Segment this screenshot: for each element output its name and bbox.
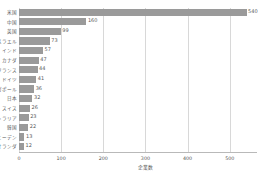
bar-value-label: 26	[31, 103, 37, 113]
bar-value-label: 13	[26, 132, 32, 142]
category-label: シンガポール	[0, 85, 17, 95]
bar	[19, 57, 39, 64]
bar	[19, 76, 36, 83]
bar-value-label: 57	[45, 45, 51, 55]
category-label: オーストラリア	[0, 114, 17, 124]
category-label: スウェーデン	[0, 133, 17, 143]
bar	[19, 18, 86, 25]
category-label: カナダ	[2, 56, 17, 66]
bar-row: 73	[19, 37, 255, 47]
bar-row: 36	[19, 85, 255, 95]
y-axis-category-labels: 米国中国英国イスラエルインドカナダフランスドイツシンガポール日本スイスオーストラ…	[0, 8, 17, 152]
category-label: 米国	[7, 8, 17, 18]
bar-row: 32	[19, 94, 255, 104]
bar-row: 57	[19, 46, 255, 56]
bar	[19, 85, 34, 92]
bar	[19, 9, 247, 16]
bar	[19, 114, 29, 121]
bar-value-label: 41	[38, 74, 44, 84]
category-label: インド	[2, 46, 17, 56]
bar-row: 540	[19, 8, 255, 18]
bar-row: 12	[19, 142, 255, 152]
x-axis-tick-labels: 0100200300400500	[19, 154, 257, 163]
bar-value-label: 32	[34, 93, 40, 103]
bar	[19, 95, 32, 102]
bar-value-label: 540	[248, 7, 258, 17]
x-tick-label: 0	[17, 154, 20, 163]
x-tick-label: 500	[225, 154, 234, 163]
bar-value-label: 44	[39, 64, 45, 74]
bar-value-label: 160	[88, 16, 98, 26]
bar	[19, 66, 38, 73]
bar-chart: 54016099735747444136322623221312 米国中国英国イ…	[0, 0, 278, 175]
bar	[19, 133, 24, 140]
bar-value-label: 12	[26, 141, 32, 151]
category-label: スイス	[2, 104, 17, 114]
bar	[19, 37, 50, 44]
x-tick-label: 300	[141, 154, 150, 163]
category-label: フランス	[0, 66, 17, 76]
bar	[19, 143, 24, 150]
category-label: 中国	[7, 18, 17, 28]
bar-row: 44	[19, 66, 255, 76]
bar-series: 54016099735747444136322623221312	[19, 8, 255, 152]
bar-row: 22	[19, 123, 255, 133]
plot-area: 54016099735747444136322623221312	[19, 8, 255, 152]
bar-row: 26	[19, 104, 255, 114]
category-label: 英国	[7, 27, 17, 37]
category-label: オランダ	[0, 142, 17, 152]
bar	[19, 124, 28, 131]
bar	[19, 105, 30, 112]
bar-value-label: 36	[36, 84, 42, 94]
category-label: ドイツ	[2, 75, 17, 85]
bar-value-label: 47	[40, 55, 46, 65]
x-tick-label: 400	[183, 154, 192, 163]
bar-value-label: 73	[51, 36, 57, 46]
x-tick-label: 100	[57, 154, 66, 163]
bar	[19, 28, 61, 35]
bar-value-label: 22	[30, 122, 36, 132]
bar-row: 160	[19, 18, 255, 28]
bar-value-label: 99	[62, 26, 68, 36]
category-label: 日本	[7, 94, 17, 104]
bar-row: 23	[19, 114, 255, 124]
bar	[19, 47, 43, 54]
category-label: 韓国	[7, 123, 17, 133]
category-label: イスラエル	[0, 37, 17, 47]
x-axis-line	[19, 152, 257, 153]
x-tick-label: 200	[99, 154, 108, 163]
bar-row: 47	[19, 56, 255, 66]
bar-row: 41	[19, 75, 255, 85]
bar-value-label: 23	[30, 112, 36, 122]
bar-row: 13	[19, 133, 255, 143]
x-axis-title: 企業数	[125, 163, 165, 170]
